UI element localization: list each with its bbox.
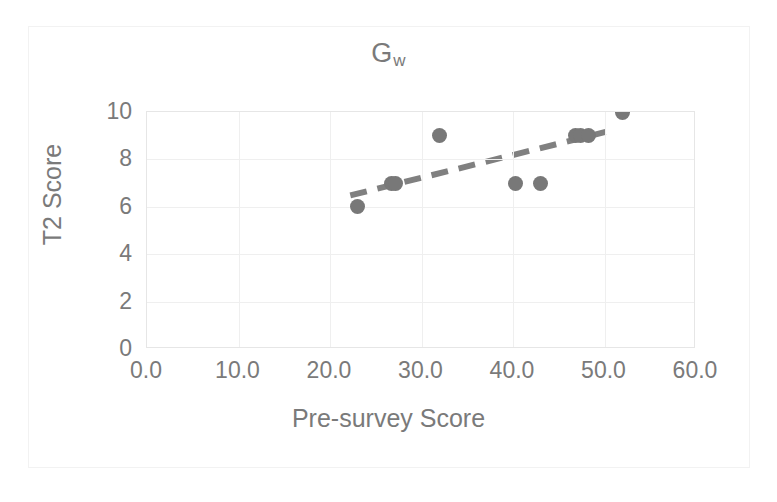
chart-container: Gw 0246810 0.010.020.030.040.050.060.0 P… [0,0,777,502]
y-axis-tick-labels: 0246810 [86,111,132,348]
gridline-vertical [330,112,331,347]
y-axis-tick-label: 2 [119,287,132,314]
y-axis-tick-label: 8 [119,145,132,172]
gridline-horizontal [147,159,694,160]
gridline-vertical [605,112,606,347]
x-axis-title: Pre-survey Score [0,404,777,433]
chart-title: Gw [0,38,777,71]
y-axis-tick-label: 10 [106,98,132,125]
y-axis-tick-label: 4 [119,240,132,267]
x-axis-tick-label: 40.0 [490,357,535,384]
gridline-horizontal [147,207,694,208]
y-axis-tick-label: 6 [119,192,132,219]
x-axis-tick-label: 10.0 [215,357,260,384]
chart-title-subscript: w [393,51,405,70]
data-point [388,176,403,191]
gridline-vertical [239,112,240,347]
gridline-vertical [513,112,514,347]
gridline-vertical [422,112,423,347]
plot-inner [147,112,694,347]
trendline [147,112,694,347]
x-axis-tick-label: 30.0 [398,357,443,384]
x-axis-tick-label: 60.0 [673,357,718,384]
x-axis-tick-label: 50.0 [581,357,626,384]
gridline-horizontal [147,302,694,303]
x-axis-tick-label: 20.0 [307,357,352,384]
gridline-horizontal [147,254,694,255]
data-point [508,176,523,191]
y-axis-title: T2 Score [38,95,67,295]
plot-area [146,111,695,348]
data-point [581,128,596,143]
x-axis-tick-labels: 0.010.020.030.040.050.060.0 [146,357,695,389]
data-point [533,176,548,191]
chart-title-base: G [371,38,392,68]
x-axis-tick-label: 0.0 [130,357,162,384]
